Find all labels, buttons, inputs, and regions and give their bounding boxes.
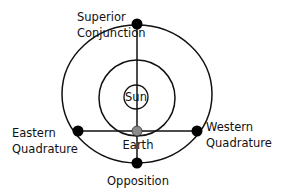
planetary-configuration-diagram: Superior Conjunction Sun Earth Eastern Q… — [0, 0, 286, 195]
eastern-label-line2: Quadrature — [12, 142, 78, 156]
earth-label: Earth — [123, 138, 154, 152]
western-label-line1: Western — [206, 120, 253, 134]
sun-label: Sun — [125, 90, 147, 104]
superior-label-line2: Conjunction — [77, 26, 145, 40]
western-label-line2: Quadrature — [206, 136, 272, 150]
earth-dot — [132, 126, 142, 136]
eastern-quadrature-dot — [73, 126, 84, 137]
superior-label-line1: Superior — [77, 10, 126, 24]
western-quadrature-dot — [192, 126, 203, 137]
opposition-dot — [132, 158, 143, 169]
eastern-label-line1: Eastern — [12, 126, 56, 140]
opposition-label: Opposition — [107, 174, 169, 188]
